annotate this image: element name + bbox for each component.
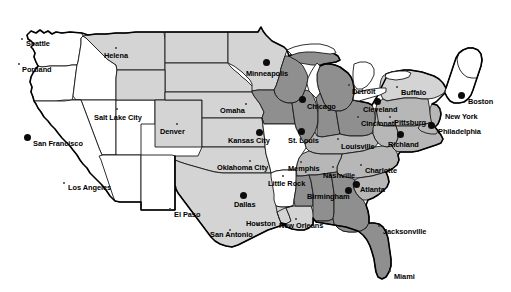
city-label-chicago: Chicago <box>307 103 336 111</box>
city-marker-denver[interactable] <box>176 123 178 125</box>
city-marker-new-york[interactable] <box>439 109 441 111</box>
city-marker-richland[interactable] <box>397 131 404 138</box>
city-marker-memphis[interactable] <box>300 161 302 163</box>
city-label-cleveland: Cleveland <box>363 106 397 114</box>
city-marker-oklahoma-city[interactable] <box>249 160 251 162</box>
lake-huron <box>353 62 374 89</box>
city-label-jacksonville: Jacksonville <box>383 228 426 236</box>
city-marker-pittsburg[interactable] <box>389 116 391 118</box>
city-label-new-york: New York <box>445 113 478 121</box>
city-label-boston: Boston <box>468 98 493 106</box>
state-north-dakota <box>165 32 228 63</box>
city-label-oklahoma-city: Oklahoma City <box>217 164 268 172</box>
city-label-denver: Denver <box>160 128 185 136</box>
city-label-birmingham: Birmingham <box>307 193 350 201</box>
city-marker-atlanta[interactable] <box>353 181 360 188</box>
city-marker-minneapolis[interactable] <box>263 59 270 66</box>
city-label-louisville: Louisville <box>341 143 375 151</box>
city-marker-little-rock[interactable] <box>282 175 284 177</box>
city-label-buffalo: Buffalo <box>401 89 426 97</box>
city-marker-chicago[interactable] <box>299 96 306 103</box>
city-label-pittsburg: Pittsburg <box>394 119 426 127</box>
city-label-detroit: Detroit <box>352 88 375 96</box>
city-label-los-angeles: Los Angeles <box>68 184 111 192</box>
city-label-atlanta: Atlanta <box>360 186 385 194</box>
city-marker-buffalo[interactable] <box>396 86 398 88</box>
city-marker-kansas-city[interactable] <box>256 129 263 136</box>
city-marker-helena[interactable] <box>115 47 117 49</box>
city-label-salt-lake-city: Salt Lake City <box>94 114 142 122</box>
city-marker-boston[interactable] <box>458 92 465 99</box>
city-marker-salt-lake-city[interactable] <box>116 108 118 110</box>
city-label-seattle: Seattle <box>26 40 50 48</box>
city-marker-detroit[interactable] <box>348 84 350 86</box>
city-label-helena: Helena <box>104 52 128 60</box>
state-utah <box>116 100 155 155</box>
city-marker-miami[interactable] <box>389 270 391 272</box>
city-marker-cincinnati[interactable] <box>357 116 359 118</box>
city-marker-charlotte[interactable] <box>360 164 362 166</box>
city-label-houston: Houston <box>246 220 276 228</box>
state-arkansas <box>271 170 297 207</box>
state-colorado <box>155 100 202 147</box>
city-marker-omaha[interactable] <box>245 103 247 105</box>
city-marker-los-angeles[interactable] <box>63 182 65 184</box>
city-label-st-louis: St. Louis <box>288 137 319 145</box>
city-label-san-francisco: San Francisco <box>33 140 83 148</box>
city-label-memphis: Memphis <box>288 165 320 173</box>
city-label-minneapolis: Minneapolis <box>246 70 288 78</box>
city-marker-cleveland[interactable] <box>374 98 381 105</box>
city-marker-seattle[interactable] <box>21 38 23 40</box>
city-label-charlotte: Charlotte <box>365 167 397 175</box>
city-marker-el-paso[interactable] <box>169 208 171 210</box>
city-label-miami: Miami <box>394 273 415 281</box>
city-marker-new-orleans[interactable] <box>295 218 297 220</box>
city-label-little-rock: Little Rock <box>268 180 305 188</box>
state-wyoming <box>116 70 165 100</box>
city-label-el-paso: El Paso <box>174 211 200 219</box>
city-marker-st-louis[interactable] <box>298 128 305 135</box>
state-new-mexico <box>141 155 175 210</box>
city-label-richland: Richland <box>388 141 419 149</box>
city-label-omaha: Omaha <box>220 107 245 115</box>
city-label-dallas: Dallas <box>234 201 255 209</box>
city-marker-dallas[interactable] <box>240 192 247 199</box>
city-marker-portland[interactable] <box>18 63 20 65</box>
city-marker-jacksonville[interactable] <box>378 225 380 227</box>
city-marker-san-francisco[interactable] <box>24 134 31 141</box>
city-label-nashville: Nashville <box>323 172 355 180</box>
city-label-kansas-city: Kansas City <box>228 137 270 145</box>
city-label-philadelphia: Philadelphia <box>438 128 481 136</box>
city-label-san-antonio: San Antonio <box>210 231 253 239</box>
city-label-portland: Portland <box>22 66 52 74</box>
us-map-figure: SeattlePortlandHelenaSalt Lake CitySan F… <box>0 0 511 292</box>
city-marker-nashville[interactable] <box>332 166 334 168</box>
city-label-new-orleans: New Orleans <box>279 222 323 230</box>
city-marker-philadelphia[interactable] <box>428 122 435 129</box>
city-label-cincinnati: Cincinnati <box>361 120 396 128</box>
city-marker-louisville[interactable] <box>337 138 339 140</box>
